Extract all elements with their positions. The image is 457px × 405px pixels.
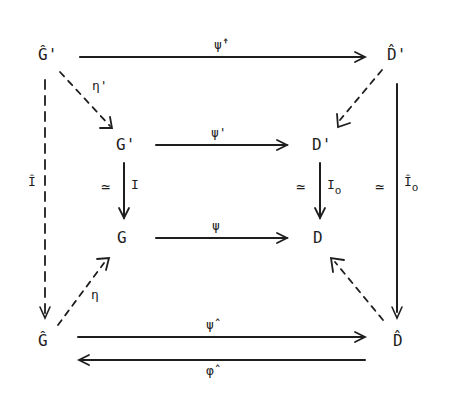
label-psi-prime: ψ' [211,126,227,139]
label-psi-hat-prime: ψ̂' [214,38,230,51]
node-d-hat-prime: D̂' [387,47,406,63]
label-I-o: Io [327,178,341,191]
arrow-dhatprime-dprime [340,70,382,120]
iso-I-o: ≃ [296,180,305,195]
label-I: I [131,178,139,191]
node-d-hat: D̂ [393,333,403,349]
node-d-prime: D' [312,137,331,153]
label-eta: η [91,288,99,301]
node-g: G [117,230,127,246]
label-phi-hat: φ̂ [206,364,214,377]
label-I-hat-o-main: Î [404,174,412,189]
label-psi-hat: ψ̂ [206,318,214,331]
node-g-hat: Ĝ [38,333,48,349]
label-I-o-sub: o [335,184,342,197]
iso-I-hat-o: ≃ [375,180,384,195]
node-d: D [313,230,323,246]
label-eta-prime: η' [92,79,108,92]
label-psi: ψ [212,219,220,232]
label-I-o-main: I [327,177,335,192]
node-g-hat-prime: Ĝ' [38,47,57,63]
node-g-prime: G' [116,137,135,153]
iso-I: ≃ [101,180,110,195]
label-I-hat: Î [28,175,36,188]
label-I-hat-o-sub: o [412,181,419,194]
label-I-hat-o: Îo [404,175,418,188]
arrow-dhat-d [335,262,383,320]
